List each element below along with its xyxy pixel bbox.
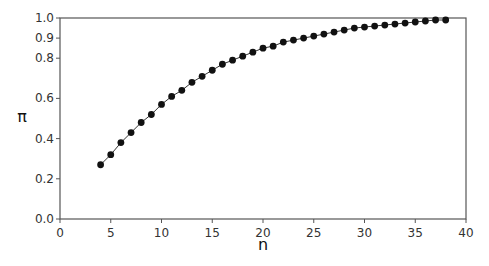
data-point	[290, 37, 297, 44]
y-axis: 0.00.20.40.60.80.91.0	[35, 11, 60, 226]
data-point	[331, 29, 338, 36]
x-tick-label: 40	[458, 226, 473, 240]
y-tick-label: 0.2	[35, 172, 54, 186]
data-point	[178, 87, 185, 94]
data-point	[432, 17, 439, 24]
data-point	[138, 119, 145, 126]
y-tick-label: 1.0	[35, 11, 54, 25]
data-point	[199, 73, 206, 80]
data-point	[442, 17, 449, 24]
data-point	[249, 49, 256, 56]
data-point	[128, 129, 135, 136]
data-point	[209, 67, 216, 74]
data-point	[107, 151, 114, 158]
x-tick-label: 25	[306, 226, 321, 240]
data-point	[422, 18, 429, 25]
data-point	[351, 25, 358, 32]
data-point	[392, 21, 399, 28]
data-point	[270, 43, 277, 50]
x-tick-label: 5	[107, 226, 115, 240]
y-tick-label: 0.9	[35, 31, 54, 45]
data-point	[189, 79, 196, 86]
data-point	[310, 33, 317, 40]
data-point	[158, 101, 165, 108]
data-point	[321, 31, 328, 38]
y-tick-label: 0.4	[35, 132, 54, 146]
data-point	[381, 22, 388, 29]
x-tick-label: 30	[357, 226, 372, 240]
x-tick-label: 10	[154, 226, 169, 240]
data-point	[361, 24, 368, 31]
data-point	[168, 93, 175, 100]
x-axis-label: n	[258, 235, 268, 254]
series-line	[101, 20, 446, 165]
data-point	[239, 53, 246, 60]
x-tick-label: 15	[205, 226, 220, 240]
data-point	[402, 20, 409, 27]
data-point	[97, 161, 104, 168]
y-tick-label: 0.6	[35, 91, 54, 105]
line-chart: 0.00.20.40.60.80.91.0 0510152025303540 n…	[0, 0, 489, 266]
y-tick-label: 0.0	[35, 212, 54, 226]
x-tick-label: 0	[56, 226, 64, 240]
data-point	[118, 139, 125, 146]
data-point	[148, 111, 155, 118]
data-point	[341, 27, 348, 34]
series-markers	[97, 17, 449, 169]
data-point	[412, 19, 419, 26]
y-tick-label: 0.8	[35, 51, 54, 65]
data-point	[300, 35, 307, 42]
x-tick-label: 35	[408, 226, 423, 240]
data-point	[260, 45, 267, 52]
data-point	[280, 39, 287, 46]
data-point	[371, 23, 378, 30]
data-point	[229, 57, 236, 64]
y-axis-label: π	[17, 107, 27, 126]
data-point	[219, 61, 226, 68]
